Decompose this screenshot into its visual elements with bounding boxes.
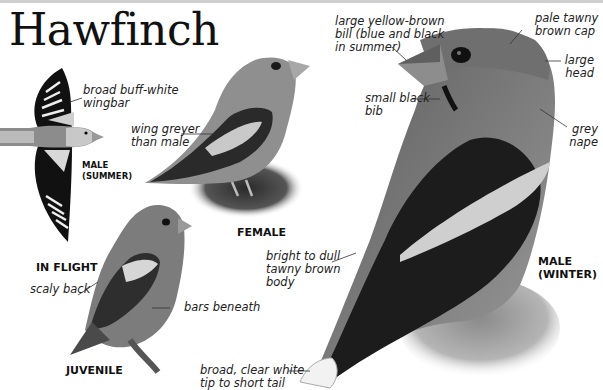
label-cap: pale tawny brown cap (535, 12, 598, 38)
caption-male-summer: MALE (SUMMER) (82, 160, 132, 182)
label-large-head: large head (564, 54, 594, 80)
label-body: bright to dull tawny brown body (266, 250, 340, 289)
label-wing-greyer: wing greyer than male (131, 123, 200, 149)
male-winter-bird-figure (300, 28, 560, 388)
label-tail-tip: broad, clear white tip to short tail (200, 364, 304, 390)
label-bill: large yellow-brown bill (blue and black … (335, 15, 445, 54)
caption-in-flight: IN FLIGHT (36, 261, 97, 274)
caption-female: FEMALE (237, 226, 286, 239)
label-bib: small black bib (365, 92, 430, 118)
label-wingbar: broad buff-white wingbar (83, 84, 179, 110)
caption-male-winter: MALE (WINTER) (538, 255, 597, 281)
label-scaly-back: scaly back (30, 283, 90, 296)
caption-juvenile: JUVENILE (66, 364, 123, 377)
label-bars-beneath: bars beneath (184, 301, 260, 314)
label-grey-nape: grey nape (568, 123, 598, 149)
